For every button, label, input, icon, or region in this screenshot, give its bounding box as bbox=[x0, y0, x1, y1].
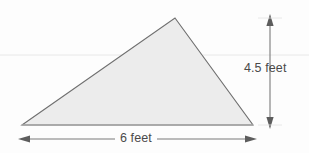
height-arrowhead-top-icon bbox=[266, 14, 273, 26]
height-dimension-label: 4.5 feet bbox=[244, 62, 287, 75]
figure-canvas bbox=[0, 0, 309, 153]
width-dimension-label: 6 feet bbox=[115, 132, 157, 145]
geometry-figure: 4.5 feet 6 feet bbox=[0, 0, 309, 153]
triangle-shape bbox=[22, 18, 253, 125]
width-arrowhead-right-icon bbox=[245, 135, 257, 142]
height-arrowhead-bottom-icon bbox=[266, 117, 273, 129]
width-arrowhead-left-icon bbox=[18, 135, 30, 142]
